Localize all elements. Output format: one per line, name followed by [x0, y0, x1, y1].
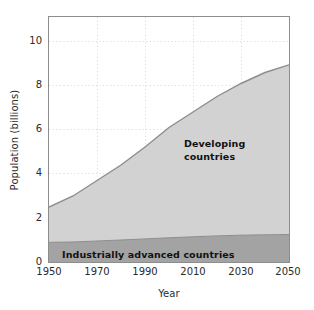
x-tick-label-2050: 2050	[268, 266, 308, 277]
x-tick-label-1990: 1990	[125, 266, 165, 277]
y-tick-label-6: 6	[18, 124, 42, 134]
industrially-advanced-countries-label: Industrially advanced countries	[62, 249, 235, 261]
developing-countries-label-line2: countries	[184, 150, 245, 163]
y-tick-label-4: 4	[18, 168, 42, 178]
x-tick-label-1970: 1970	[77, 266, 117, 277]
y-tick-label-10: 10	[18, 36, 42, 46]
x-tick-label-2030: 2030	[221, 266, 261, 277]
developing-countries-label-line1: Developing	[184, 137, 245, 150]
x-tick-label-2010: 2010	[173, 266, 213, 277]
plot-area	[48, 16, 290, 263]
plot-svg	[49, 17, 289, 262]
x-tick-label-1950: 1950	[29, 266, 69, 277]
developing-countries-label: Developing countries	[184, 137, 245, 163]
y-tick-label-8: 8	[18, 80, 42, 90]
y-tick-label-2: 2	[18, 213, 42, 223]
population-area-chart: Population (billions) 10 8 6 4 2 0	[0, 0, 314, 310]
x-axis-title: Year	[48, 288, 290, 299]
developing-countries-area	[49, 65, 289, 243]
